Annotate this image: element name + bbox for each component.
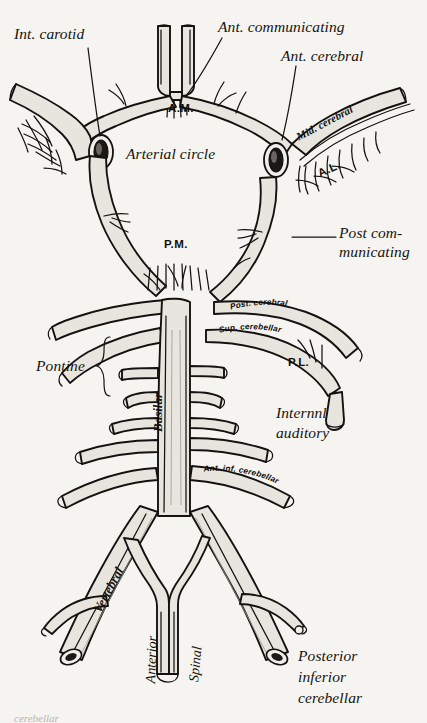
label-basilar: Basilar — [150, 393, 166, 432]
label-ant-cerebral: Ant. cerebral — [281, 47, 364, 64]
label-pl: P.L. — [288, 356, 309, 368]
anterior-cerebral-arteries — [158, 25, 194, 96]
label-arterial-circle: Arterial circle — [126, 145, 215, 162]
label-int-carotid: Int. carotid — [14, 25, 84, 42]
label-internal-auditory-line2: auditory — [276, 424, 329, 441]
label-post-communicating-line1: Post com- — [339, 224, 402, 241]
figure-caption: cerebellar — [14, 712, 59, 723]
label-am: A.M. — [168, 102, 194, 114]
label-ant-communicating: Ant. communicating — [218, 18, 345, 35]
label-post-communicating-line2: municating — [339, 243, 410, 260]
label-anterior: Anterior — [143, 636, 161, 684]
label-posterior-inferior-cerebellar-line1: Posterior — [298, 647, 357, 664]
label-pontine: Pontine — [36, 357, 85, 374]
label-pm: P.M. — [164, 238, 188, 250]
label-internal-auditory-line1: Internnl — [276, 404, 327, 421]
label-posterior-inferior-cerebellar-line2: inferior — [298, 668, 346, 685]
label-posterior-inferior-cerebellar-line3: cerebellar — [298, 689, 362, 706]
figure-page: .v { fill:#e8e5df; stroke:#141210; strok… — [0, 0, 427, 723]
